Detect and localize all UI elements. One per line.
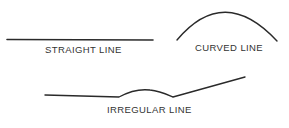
irregular-line: [45, 77, 245, 97]
irregular-line-label: IRREGULAR LINE: [107, 105, 192, 115]
straight-line: [7, 40, 153, 41]
curved-line-label: CURVED LINE: [195, 43, 263, 53]
curved-line: [177, 12, 277, 41]
straight-line-label: STRAIGHT LINE: [45, 45, 122, 55]
